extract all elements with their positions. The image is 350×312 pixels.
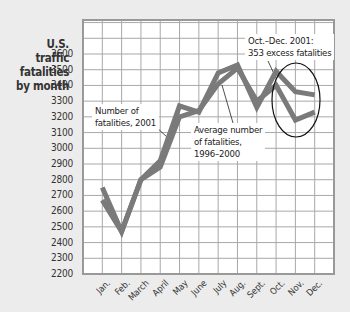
annotation-line: Average number	[194, 124, 262, 136]
annotation-line: Number of	[95, 105, 156, 117]
annotation-line: 353 excess fatalities	[248, 47, 331, 59]
annotation-line: fatalities, 2001	[95, 117, 156, 129]
annotation-excess: Oct.–Dec. 2001: 353 excess fatalities	[245, 34, 334, 60]
annotation-2001: Number of fatalities, 2001	[92, 104, 159, 130]
annotation-line: 1996–2000	[194, 148, 262, 160]
annotation-line: of fatalities,	[194, 136, 262, 148]
annotation-line: Oct.–Dec. 2001:	[248, 35, 331, 47]
annotation-average: Average number of fatalities, 1996–2000	[191, 123, 265, 161]
